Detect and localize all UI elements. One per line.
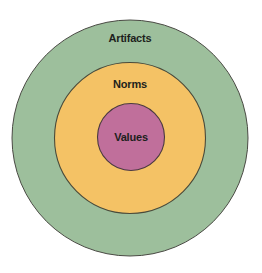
norms-label: Norms <box>113 78 147 90</box>
layer-values: Values <box>98 104 165 171</box>
values-label: Values <box>114 131 148 143</box>
concentric-layers-diagram: Artifacts Norms Values <box>0 0 262 273</box>
artifacts-label: Artifacts <box>109 32 152 44</box>
